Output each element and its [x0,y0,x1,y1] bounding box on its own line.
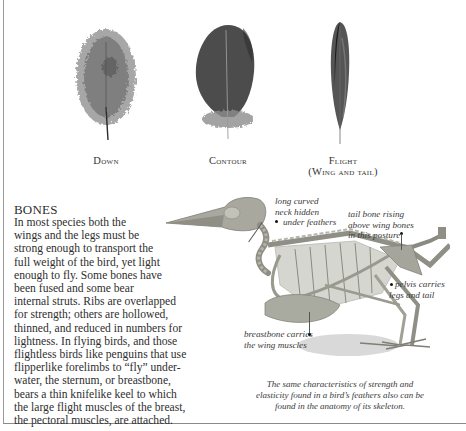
contour-caption: Contour [185,155,271,166]
tail-leader-line [401,234,402,250]
down-feather-image [70,22,142,142]
figure-caption: The same characteristics of strength and… [222,379,458,412]
neck-label-line: under feathers [275,217,336,228]
flight-label: Flight [329,155,358,166]
tail-label-line: above wing bones [348,220,414,231]
neck-label: long curved neck hidden under feathers [275,196,336,228]
flight-sublabel: (Wing and tail) [298,166,388,177]
bones-line: bears a thin knifelike keel to which [14,388,180,401]
contour-feather-image [188,22,268,142]
bones-line: water, the sternum, or breastbone, [14,374,180,387]
neck-label-line: long curved [275,196,336,207]
figure-caption-line: elasticity found in a bird’s feathers al… [222,390,458,401]
breastbone-label-line: the wing muscles [244,340,313,351]
tail-label-line: tail bone rising [348,209,414,220]
frame-left-rule [3,0,4,423]
flight-feather-image [326,18,356,146]
breastbone-label: breastbone carries the wing muscles [244,329,313,350]
figure-caption-line: found in the anatomy of its skeleton. [222,401,458,412]
bones-line: the large flight muscles of the breast, [14,401,180,414]
neck-label-line: neck hidden [275,207,336,218]
bones-line: the pectoral muscles, are attached. [14,414,180,427]
breastbone-leader-line [309,312,310,333]
pelvis-label-line: legs and tail [389,290,445,301]
contour-label: Contour [209,155,247,166]
breastbone-label-line: breastbone carries [244,329,313,340]
breastbone-label-dot [308,333,311,336]
neck-label-dot [275,220,278,223]
pelvis-label-dot [390,283,393,286]
tail-label-line: in this posture [348,230,414,241]
figure-caption-line: The same characteristics of strength and [222,379,458,390]
pelvis-label: pelvis carries legs and tail [389,279,445,300]
pelvis-label-line: pelvis carries [389,279,445,290]
down-caption: Down [70,155,142,166]
tail-label: tail bone rising above wing bones in thi… [348,209,414,241]
flight-caption: Flight (Wing and tail) [298,155,388,177]
down-label: Down [93,155,119,166]
